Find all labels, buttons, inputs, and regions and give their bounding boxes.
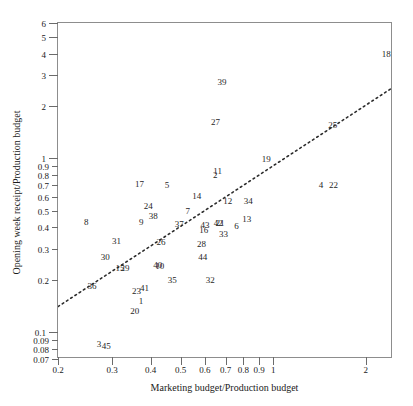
data-point-label: 12 bbox=[223, 197, 232, 206]
x-tick-label: 0.6 bbox=[199, 366, 210, 375]
data-point-label: 8 bbox=[84, 217, 89, 226]
y-tick-label: 6 bbox=[42, 20, 47, 29]
data-point-label: 43 bbox=[200, 220, 209, 229]
x-tick-label: 1 bbox=[271, 366, 276, 375]
data-point-label: 37 bbox=[175, 220, 184, 229]
y-tick-mark: 0.09 bbox=[52, 340, 58, 341]
data-point-label: 20 bbox=[130, 306, 139, 315]
y-tick-label: 0.2 bbox=[38, 276, 49, 285]
y-tick-mark: 0.3 bbox=[52, 249, 58, 250]
data-point-label: 33 bbox=[219, 230, 228, 239]
y-tick-label: 0.07 bbox=[33, 356, 49, 365]
y-axis-title: Opening week receipt/Production budget bbox=[11, 25, 22, 361]
y-tick-mark: 0.7 bbox=[52, 185, 58, 186]
data-point-label: 35 bbox=[168, 275, 177, 284]
y-tick-mark: 0.5 bbox=[52, 211, 58, 212]
y-tick-label: 4 bbox=[42, 50, 47, 59]
data-point-label: 9 bbox=[139, 218, 144, 227]
y-tick-label: 3 bbox=[42, 72, 47, 81]
scatter-plot-figure: 1234567891011121314151617181920212223242… bbox=[0, 0, 413, 406]
data-point-label: 41 bbox=[140, 283, 149, 292]
x-tick-mark bbox=[112, 357, 113, 365]
y-tick-mark: 0.8 bbox=[52, 175, 58, 176]
x-tick-label: 0.4 bbox=[145, 366, 156, 375]
data-point-label: 1 bbox=[139, 296, 144, 305]
data-point-label: 28 bbox=[197, 240, 206, 249]
data-point-label: 45 bbox=[102, 342, 111, 351]
data-point-label: 36 bbox=[88, 282, 97, 291]
data-point-label: 4 bbox=[319, 181, 324, 190]
y-tick-label: 2 bbox=[42, 102, 47, 111]
data-point-label: 42 bbox=[214, 218, 223, 227]
x-tick-label: 0.3 bbox=[107, 366, 118, 375]
x-tick-mark bbox=[151, 357, 152, 365]
data-point-label: 26 bbox=[156, 238, 165, 247]
x-tick-mark bbox=[181, 357, 182, 365]
data-point-label: 25 bbox=[328, 121, 337, 130]
data-point-label: 18 bbox=[382, 49, 391, 58]
x-tick-mark bbox=[273, 357, 274, 365]
y-tick-label: 5 bbox=[42, 33, 47, 42]
x-tick-mark bbox=[243, 357, 244, 365]
data-point-label: 44 bbox=[198, 252, 207, 261]
x-tick-label: 2 bbox=[364, 366, 369, 375]
x-tick-label: 0.9 bbox=[253, 366, 264, 375]
x-tick-label: 0.2 bbox=[52, 366, 63, 375]
x-axis-title: Marketing budget/Production budget bbox=[57, 382, 392, 393]
data-point-label: 6 bbox=[234, 222, 239, 231]
y-tick-label: 0.3 bbox=[38, 246, 49, 255]
x-tick-mark bbox=[226, 357, 227, 365]
data-point-label: 3 bbox=[97, 339, 102, 348]
data-point-label: 29 bbox=[120, 264, 129, 273]
y-tick-mark: 0.4 bbox=[52, 227, 58, 228]
data-point-label: 19 bbox=[262, 155, 271, 164]
y-tick-mark: 6 bbox=[49, 23, 58, 24]
y-tick-mark: 3 bbox=[49, 75, 58, 76]
data-point-label: 14 bbox=[192, 192, 201, 201]
y-tick-mark: 4 bbox=[49, 54, 58, 55]
y-tick-mark: 0.9 bbox=[52, 166, 58, 167]
x-tick-mark bbox=[205, 357, 206, 365]
data-point-label: 5 bbox=[165, 180, 170, 189]
y-tick-mark: 1 bbox=[49, 158, 58, 159]
data-point-label: 7 bbox=[186, 206, 191, 215]
y-tick-mark: 0.1 bbox=[49, 332, 58, 333]
x-tick-mark bbox=[259, 357, 260, 365]
y-tick-mark: 0.2 bbox=[52, 280, 58, 281]
data-point-label: 39 bbox=[218, 77, 227, 86]
x-tick-mark bbox=[58, 357, 59, 365]
y-tick-mark: 5 bbox=[49, 37, 58, 38]
data-point-label: 30 bbox=[101, 252, 110, 261]
data-point-label: 34 bbox=[244, 197, 253, 206]
data-point-label: 38 bbox=[149, 211, 158, 220]
x-tick-mark bbox=[366, 357, 367, 365]
x-tick-label: 0.8 bbox=[238, 366, 249, 375]
data-point-label: 27 bbox=[211, 117, 220, 126]
y-tick-mark: 0.6 bbox=[52, 197, 58, 198]
data-point-label: 11 bbox=[213, 167, 222, 176]
plot-area: 1234567891011121314151617181920212223242… bbox=[57, 22, 392, 358]
data-point-label: 32 bbox=[206, 275, 215, 284]
y-tick-mark: 2 bbox=[49, 106, 58, 107]
x-tick-label: 0.7 bbox=[220, 366, 231, 375]
x-tick-label: 0.5 bbox=[175, 366, 186, 375]
data-point-label: 40 bbox=[153, 261, 162, 270]
data-point-label: 31 bbox=[112, 236, 121, 245]
y-tick-label: 0.8 bbox=[38, 172, 49, 181]
data-point-label: 13 bbox=[242, 214, 251, 223]
y-tick-label: 0.5 bbox=[38, 207, 49, 216]
y-tick-mark: 0.08 bbox=[52, 349, 58, 350]
data-point-label: 22 bbox=[329, 181, 338, 190]
data-point-label: 17 bbox=[135, 180, 144, 189]
y-tick-label: 0.6 bbox=[38, 193, 49, 202]
data-points-layer: 1234567891011121314151617181920212223242… bbox=[58, 23, 391, 357]
y-tick-label: 0.4 bbox=[38, 224, 49, 233]
y-tick-label: 0.7 bbox=[38, 182, 49, 191]
y-tick-label: 0.08 bbox=[33, 345, 49, 354]
